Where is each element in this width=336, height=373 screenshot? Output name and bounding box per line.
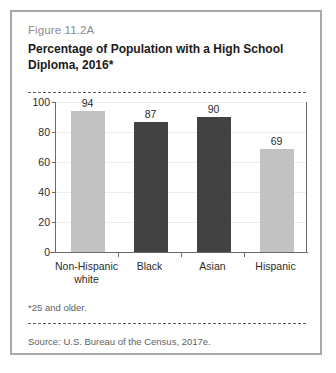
bar: 69 <box>260 149 294 253</box>
bar-value-label: 94 <box>82 97 94 109</box>
source-note: Source: U.S. Bureau of the Census, 2017e… <box>28 336 211 347</box>
y-axis-tick-label: 80 <box>38 126 50 138</box>
y-axis-tick-label: 20 <box>38 216 50 228</box>
bar: 90 <box>197 117 231 252</box>
x-axis-tick-mark <box>181 252 182 257</box>
footnote: *25 and older. <box>28 302 87 313</box>
bar-value-label: 87 <box>145 108 157 120</box>
bar: 94 <box>71 111 105 252</box>
bar-value-label: 69 <box>271 135 283 147</box>
x-axis-category-label: Asian <box>199 260 225 273</box>
x-axis-tick-mark <box>244 252 245 257</box>
y-axis-tick-label: 40 <box>38 186 50 198</box>
y-axis-tick-mark <box>52 222 56 223</box>
x-axis-category-label: Hispanic <box>255 260 295 273</box>
y-axis-tick-mark <box>52 192 56 193</box>
y-axis-tick-label: 100 <box>32 96 50 108</box>
bar: 87 <box>134 122 168 253</box>
y-axis-tick-mark <box>52 132 56 133</box>
x-axis-category-label: Black <box>137 260 163 273</box>
y-axis-tick-mark <box>52 102 56 103</box>
bar-value-label: 90 <box>208 103 220 115</box>
figure-frame: Figure 11.2A Percentage of Population wi… <box>10 10 322 355</box>
y-axis-tick-mark <box>52 162 56 163</box>
y-axis-tick-label: 60 <box>38 156 50 168</box>
x-axis-category-label: Non-Hispanic white <box>55 260 118 286</box>
x-axis-tick-mark <box>118 252 119 257</box>
plot-area: 02040608010094879069 <box>55 102 307 252</box>
divider-bottom <box>28 323 306 324</box>
x-axis-line <box>50 252 308 253</box>
